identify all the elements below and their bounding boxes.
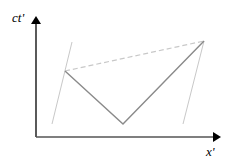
y-axis-label: ct' (12, 10, 24, 26)
x-axis-label: x' (206, 144, 215, 160)
simultaneity-dashed-line (65, 41, 204, 71)
light-path-v (65, 41, 204, 124)
left-boundary-worldline (52, 42, 72, 124)
right-boundary-worldline (183, 41, 204, 124)
spacetime-diagram (0, 0, 235, 168)
